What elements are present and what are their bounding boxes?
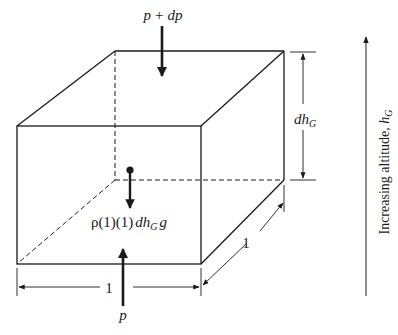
cube-edge	[17, 51, 115, 126]
top-pressure-label: p+dp	[143, 7, 183, 23]
cube-hidden-edges	[17, 51, 284, 264]
cube	[17, 51, 284, 264]
cube-edge	[201, 51, 284, 126]
depth-dimension-label: 1	[242, 235, 250, 251]
diagram-stage: dhG 1 1 p+dp ρ(1)(1)dhGg p Increasing al…	[0, 0, 398, 335]
altitude-axis-label: Increasing altitude, hG	[377, 109, 394, 234]
width-dimension-label: 1	[105, 280, 113, 296]
fluid-element-diagram: dhG 1 1 p+dp ρ(1)(1)dhGg p Increasing al…	[0, 0, 398, 335]
height-dimension-label: dhG	[294, 111, 316, 129]
cube-front-face	[17, 126, 201, 264]
cube-edge	[201, 180, 284, 264]
weight-label: ρ(1)(1)dhGg	[91, 214, 168, 232]
bottom-pressure-label: p	[118, 307, 127, 323]
